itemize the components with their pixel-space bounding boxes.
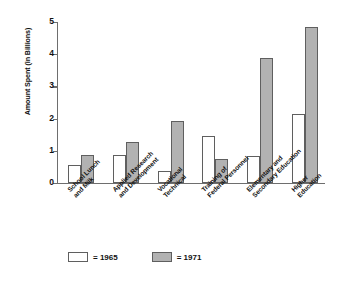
bar-chart: Amount Spent (in Billions) 012345 School… [0,0,349,283]
bar-group [158,22,184,183]
y-tick-label: 5 [49,16,54,27]
bar-group [68,22,94,183]
y-tick-label: 3 [49,80,54,91]
y-axis-line [57,22,58,183]
bar-group [202,22,228,183]
legend-item-1971: = 1971 [152,252,202,262]
y-tick-label: 0 [49,177,54,188]
legend-label-1971: = 1971 [177,253,202,262]
legend-swatch-1971 [152,252,172,262]
bar-1971 [305,27,318,183]
chart-legend: = 1965 = 1971 [68,252,235,262]
y-tick-label: 4 [49,48,54,59]
y-tick-label: 1 [49,145,54,156]
legend-swatch-1965 [68,252,88,262]
bar-group [247,22,273,183]
x-axis-line [57,183,325,184]
y-tick-label: 2 [49,113,54,124]
y-axis-title: Amount Spent (in Billions) [23,7,32,137]
bar-group [113,22,139,183]
legend-item-1965: = 1965 [68,252,118,262]
legend-label-1965: = 1965 [93,253,118,262]
